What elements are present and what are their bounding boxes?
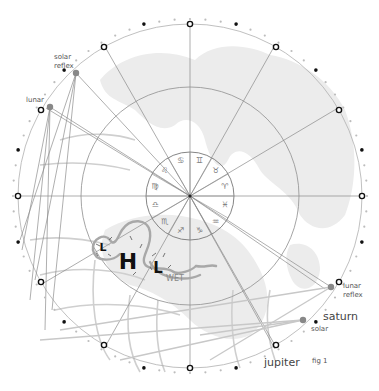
tick-mark xyxy=(220,21,222,23)
tick-mark xyxy=(29,120,31,122)
hollow-marker xyxy=(187,21,192,26)
solar-reflex-label-1: solar xyxy=(54,54,71,61)
tick-mark xyxy=(15,226,17,228)
tick-mark xyxy=(13,180,15,182)
tick-mark xyxy=(220,369,222,371)
zodiac-glyph-capricorn: ♑ xyxy=(196,227,203,235)
tick-mark xyxy=(13,210,15,212)
tick-mark xyxy=(75,331,77,333)
hollow-marker xyxy=(359,193,364,198)
tick-mark xyxy=(290,340,292,342)
black-dot-marker xyxy=(360,240,364,244)
hollow-marker xyxy=(187,365,192,370)
hollow-marker xyxy=(336,107,341,112)
tick-mark xyxy=(355,255,357,257)
tick-mark xyxy=(23,134,25,136)
black-dot-marker xyxy=(360,148,364,152)
black-dot-marker xyxy=(314,320,318,324)
planet-dot xyxy=(73,70,79,76)
zodiac-glyph-taurus: ♉ xyxy=(212,167,219,175)
jupiter-label: jupiter xyxy=(264,357,300,368)
zodiac-glyph-aquarius: ♒ xyxy=(212,218,219,226)
tick-mark xyxy=(36,106,38,108)
tick-mark xyxy=(363,164,365,166)
lunar-reflex-label-2: reflex xyxy=(343,292,363,299)
tick-mark xyxy=(87,340,89,342)
zodiac-glyph-scorpio: ♏ xyxy=(161,218,168,226)
tick-mark xyxy=(290,50,292,52)
tick-mark xyxy=(349,270,351,272)
tick-mark xyxy=(174,19,176,21)
tick-mark xyxy=(189,18,191,20)
black-dot-marker xyxy=(62,320,66,324)
black-dot-marker xyxy=(142,22,146,26)
tick-mark xyxy=(249,361,251,363)
zodiac-glyph-libra: ♎ xyxy=(152,201,159,209)
tick-mark xyxy=(36,283,38,285)
tick-mark xyxy=(189,372,191,374)
black-dot-marker xyxy=(16,148,20,152)
planet-dot xyxy=(328,284,334,290)
tick-mark xyxy=(29,270,31,272)
tick-mark xyxy=(53,309,55,311)
solar-reflex-label-2: reflex xyxy=(54,63,74,70)
black-dot-marker xyxy=(142,366,146,370)
tick-mark xyxy=(15,164,17,166)
hollow-marker xyxy=(38,279,43,284)
center-point xyxy=(188,194,191,197)
tick-mark xyxy=(204,371,206,373)
tick-mark xyxy=(44,296,46,298)
tick-mark xyxy=(23,255,25,257)
solar-label: solar xyxy=(311,326,328,333)
tick-mark xyxy=(204,19,206,21)
tick-mark xyxy=(100,42,102,44)
tick-mark xyxy=(174,371,176,373)
tick-mark xyxy=(363,226,365,228)
tick-mark xyxy=(87,50,89,52)
hollow-marker xyxy=(273,342,278,347)
hollow-marker xyxy=(101,44,106,49)
low-pressure-left-label: L xyxy=(99,242,106,253)
saturn-label: saturn xyxy=(323,311,358,322)
tick-mark xyxy=(12,195,14,197)
black-dot-marker xyxy=(234,366,238,370)
lunar-label: lunar xyxy=(26,97,44,104)
tick-mark xyxy=(264,35,266,37)
tick-mark xyxy=(355,134,357,136)
tick-mark xyxy=(334,296,336,298)
zodiac-glyph-virgo: ♍ xyxy=(152,183,159,191)
tick-mark xyxy=(249,29,251,31)
hollow-marker xyxy=(38,107,43,112)
tick-mark xyxy=(75,59,77,61)
tick-mark xyxy=(44,93,46,95)
tick-mark xyxy=(365,210,367,212)
zodiac-glyph-sagittarius: ♐ xyxy=(177,227,184,235)
wet-label: WET xyxy=(166,275,184,283)
tick-mark xyxy=(128,29,130,31)
zodiac-glyph-aries: ♈ xyxy=(221,183,228,191)
tick-mark xyxy=(365,180,367,182)
hollow-marker xyxy=(15,193,20,198)
tick-mark xyxy=(53,81,55,83)
zodiac-glyph-cancer: ♋ xyxy=(177,157,184,165)
tick-mark xyxy=(303,331,305,333)
black-dot-marker xyxy=(16,240,20,244)
tick-mark xyxy=(277,42,279,44)
black-dot-marker xyxy=(314,68,318,72)
planet-dot xyxy=(300,317,306,323)
tick-mark xyxy=(114,35,116,37)
hollow-marker xyxy=(101,342,106,347)
tick-mark xyxy=(114,355,116,357)
lunar-reflex-label-1: lunar xyxy=(343,283,361,290)
tick-mark xyxy=(303,59,305,61)
hollow-marker xyxy=(336,279,341,284)
tick-mark xyxy=(158,21,160,23)
tick-mark xyxy=(277,348,279,350)
tick-mark xyxy=(366,195,368,197)
tick-mark xyxy=(158,369,160,371)
tick-mark xyxy=(128,361,130,363)
high-pressure-label: H xyxy=(119,251,137,273)
tick-mark xyxy=(100,348,102,350)
tick-mark xyxy=(349,120,351,122)
zodiac-glyph-pisces: ♓ xyxy=(221,201,228,209)
